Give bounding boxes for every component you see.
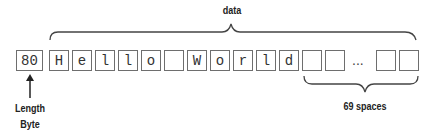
data-cell: e: [72, 50, 92, 71]
length-byte-cell: 80: [16, 50, 43, 71]
data-cell: o: [210, 50, 230, 71]
arrow-head-icon: [26, 74, 34, 81]
data-cell: r: [233, 50, 253, 71]
data-cell: l: [256, 50, 276, 71]
ellipsis: ...: [352, 52, 364, 68]
data-cell: H: [49, 50, 69, 71]
data-cell: l: [95, 50, 115, 71]
space-cell: [325, 50, 345, 71]
data-cell: l: [118, 50, 138, 71]
data-cell: d: [279, 50, 299, 71]
data-cell: o: [141, 50, 161, 71]
data-label: data: [216, 4, 249, 16]
data-cell: [164, 50, 184, 71]
data-cell: W: [187, 50, 207, 71]
length-byte-label-line1: Length: [10, 102, 51, 114]
space-cell: [376, 50, 396, 71]
spaces-brace: [304, 76, 418, 92]
data-brace: [50, 24, 416, 40]
space-cell: [399, 50, 419, 71]
length-byte-label-line2: Byte: [10, 118, 51, 130]
spaces-label: 69 spaces: [336, 100, 393, 112]
space-cell: [302, 50, 322, 71]
